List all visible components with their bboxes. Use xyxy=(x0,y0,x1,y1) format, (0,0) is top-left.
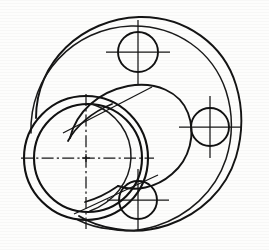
drawing-canvas xyxy=(0,0,269,250)
axis-tick-marks xyxy=(82,154,90,162)
mechanical-drawing-svg xyxy=(0,0,269,250)
rear-bore-profile xyxy=(70,85,191,189)
boss-tangent-edges xyxy=(68,104,118,202)
bolt-hole-bottom[interactable] xyxy=(107,169,169,231)
